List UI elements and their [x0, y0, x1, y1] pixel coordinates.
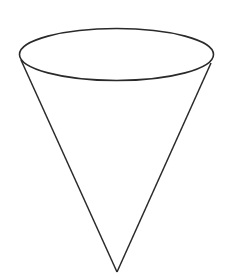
- cone-diagram: [0, 0, 226, 277]
- cone-right-edge: [117, 63, 211, 272]
- cone-left-edge: [21, 60, 117, 272]
- cone-rim-ellipse: [20, 29, 214, 81]
